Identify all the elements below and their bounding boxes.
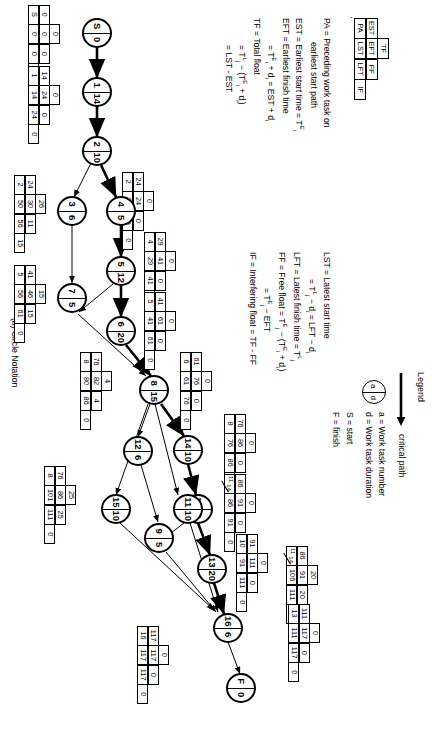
- databox-12-lft: 86: [80, 391, 91, 411]
- databox-3-if: 15: [14, 233, 25, 253]
- node-12-duration: 6: [125, 452, 151, 465]
- databox-11-ff: 20: [297, 585, 308, 605]
- databox-7-if: 0: [14, 323, 25, 343]
- legend-node-d: d: [363, 393, 385, 404]
- stray-tick-mark: ': [346, 17, 353, 18]
- databox-16-eft: 117: [299, 623, 310, 643]
- databox-14-est: 76: [235, 414, 246, 434]
- databox-15-tf: 25: [65, 485, 76, 505]
- databox-11-pa: 1114: [286, 546, 297, 566]
- databox-5-if: 0: [144, 350, 155, 370]
- node-5-task: 5: [108, 258, 134, 272]
- definition-tf-formula2: = LST - EST: [223, 45, 235, 92]
- node-16[interactable]: 16 6: [213, 613, 243, 643]
- databox-3-pa: 2: [14, 175, 25, 195]
- key-est: EST: [366, 18, 378, 39]
- node-F-duration: 0: [228, 689, 254, 702]
- databox-16-lst: 111: [288, 623, 299, 643]
- node-F[interactable]: F 0: [226, 673, 256, 703]
- databox-7-ff: 15: [25, 304, 36, 324]
- databox-4-pa: 4: [144, 232, 155, 252]
- definition-ff: FF = Free float = TEj − (TEi + di): [274, 252, 289, 371]
- databox-13-eft: 111: [247, 553, 258, 573]
- databox-12-lst: 80: [80, 371, 91, 391]
- databox-15-ff: 25: [55, 505, 66, 525]
- databox-14-ff: 0: [235, 453, 246, 473]
- databox-5-est: 41: [155, 292, 166, 312]
- node-5-duration: 12: [108, 272, 134, 285]
- databox-3-eft: 30: [25, 194, 36, 214]
- databox-7-lft: 61: [14, 304, 25, 324]
- node-5[interactable]: 5 12: [106, 256, 136, 286]
- node-12[interactable]: 12 6: [123, 436, 153, 466]
- databox-7-pa: 5: [14, 265, 25, 285]
- node-4-duration: 5: [108, 212, 134, 225]
- key-eft: EFT: [366, 38, 378, 59]
- node-6[interactable]: 6 20: [106, 316, 136, 346]
- databox-8-if: 0: [180, 410, 191, 430]
- node-1[interactable]: 1 14: [82, 77, 112, 107]
- databox-14-pa: 8: [224, 414, 235, 434]
- databox-F-lft: 117: [137, 665, 148, 685]
- databox-16-pa: 13: [288, 604, 299, 624]
- databox-15-lft: 111: [44, 505, 55, 525]
- node-15-duration: 10: [103, 510, 129, 523]
- databox-11-lst: 106: [286, 565, 297, 585]
- databox-15-eft: 86: [55, 485, 66, 505]
- databox-5-ff: 0: [155, 331, 166, 351]
- rotated-figure-frame: S 0 1 14 2 10 3 6 4 5 5 12 6 20 7 5 8 15…: [0, 0, 446, 750]
- node-16-duration: 6: [215, 629, 241, 642]
- key-pa: PA: [354, 18, 366, 39]
- databox-3-tf: 26: [35, 194, 46, 214]
- node-S-duration: 0: [84, 34, 110, 47]
- databox-12-ff: 4: [91, 391, 102, 411]
- definition-if: IF = Interfering float = TF - FF: [247, 252, 259, 365]
- databox-10-if: 0: [224, 532, 235, 552]
- databox-7-tf: 15: [35, 284, 46, 304]
- node-2-task: 2: [84, 138, 110, 152]
- databox-F-lst: 117: [137, 645, 148, 665]
- node-4-task: 4: [108, 198, 134, 212]
- databox-1-tf: 0: [49, 85, 60, 105]
- databox-F-tf: 0: [158, 645, 169, 665]
- node-6-duration: 20: [108, 332, 134, 345]
- node-4[interactable]: 4 5: [106, 196, 136, 226]
- databox-14-lst: 76: [224, 433, 235, 453]
- databox-13: 0 911110 10911110: [236, 534, 268, 612]
- databox-13-est: 91: [247, 534, 258, 554]
- node-2[interactable]: 2 10: [82, 136, 112, 166]
- node-F-task: F: [228, 675, 254, 689]
- definition-eft-formula: = TEi + di = EST + di: [263, 45, 278, 121]
- databox-10-ff: 0: [235, 513, 246, 533]
- databox-14-tf: 0: [245, 433, 256, 453]
- node-7-duration: 5: [59, 299, 85, 312]
- databox-3-ff: 11: [25, 214, 36, 234]
- node-11[interactable]: 11 10: [173, 494, 203, 524]
- databox-4-lft: 41: [144, 271, 155, 291]
- node-13-task: 13: [199, 556, 225, 570]
- node-1-task: 1: [84, 79, 110, 93]
- node-15[interactable]: 15 10: [101, 494, 131, 524]
- node-9[interactable]: 9 5: [144, 523, 174, 553]
- databox-1-if: 0: [28, 124, 39, 144]
- node-S[interactable]: S 0: [82, 18, 112, 48]
- legend-critical-path-arrow: [394, 371, 408, 431]
- node-14[interactable]: 14 10: [173, 435, 203, 465]
- node-13[interactable]: 13 20: [197, 554, 227, 584]
- node-7[interactable]: 7 5: [57, 283, 87, 313]
- node-8-duration: 15: [141, 391, 167, 404]
- databox-10-eft: 91: [235, 493, 246, 513]
- databox-8-ff: 0: [191, 391, 202, 411]
- databox-7-est: 41: [25, 265, 36, 285]
- databox-13-tf: 0: [257, 553, 268, 573]
- databox-S-tf: 0: [49, 24, 60, 44]
- databox-12: 4 76824 880860: [80, 352, 112, 430]
- databox-7-lst: 56: [14, 284, 25, 304]
- node-8[interactable]: 8 15: [139, 375, 169, 405]
- databox-1-pa: 1: [28, 66, 39, 86]
- databox-1-ff: 0: [39, 105, 50, 125]
- databox-12-tf: 4: [101, 371, 112, 391]
- databox-1-lst: 14: [28, 85, 39, 105]
- databox-1-eft: 24: [39, 85, 50, 105]
- node-3[interactable]: 3 6: [57, 196, 87, 226]
